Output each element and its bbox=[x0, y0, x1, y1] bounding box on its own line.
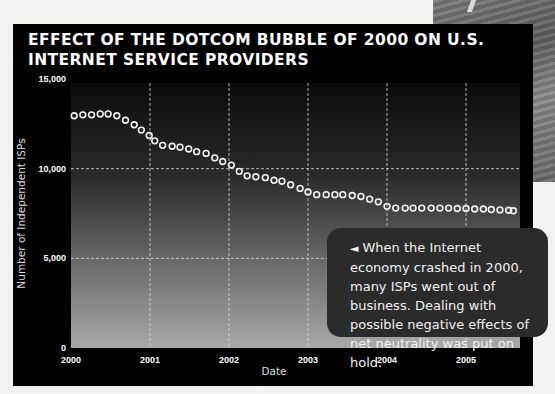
x-tick-label: 2000 bbox=[61, 355, 81, 365]
y-tick-label: 15,000 bbox=[38, 74, 66, 84]
x-axis-label: Date bbox=[261, 365, 286, 377]
x-tick-label: 2002 bbox=[219, 355, 239, 365]
callout-text: When the Internet economy crashed in 200… bbox=[350, 240, 529, 370]
y-tick-label: 10,000 bbox=[38, 164, 66, 174]
left-arrow-icon: ◄ bbox=[350, 242, 358, 255]
x-tick-label: 2001 bbox=[140, 355, 160, 365]
y-tick-label: 5,000 bbox=[43, 253, 66, 263]
x-axis-ticks: 200020012002200320042005 bbox=[61, 355, 476, 365]
annotation-callout: ◄When the Internet economy crashed in 20… bbox=[327, 228, 548, 337]
y-axis-label: Number of Independent ISPs bbox=[15, 138, 27, 288]
x-tick-label: 2003 bbox=[298, 355, 318, 365]
y-axis-ticks: 05,00010,00015,000 bbox=[38, 74, 66, 353]
y-tick-label: 0 bbox=[61, 343, 66, 353]
x-tick-label: 2005 bbox=[456, 355, 476, 365]
